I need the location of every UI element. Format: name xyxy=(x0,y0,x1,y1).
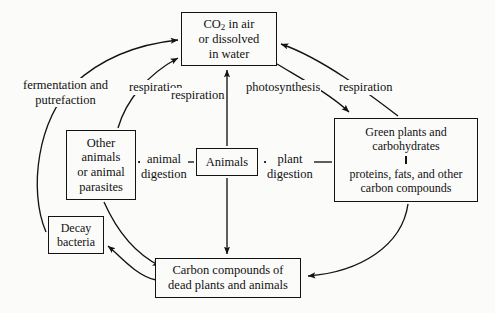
label-fermentation-line1: fermentation and xyxy=(23,78,108,92)
box-decay-bacteria-line1: Decay xyxy=(61,221,92,235)
label-animal-digestion-line1: animal xyxy=(147,152,181,166)
label-plant-digestion: plant digestion xyxy=(266,152,314,181)
label-plant-digestion-line2: digestion xyxy=(267,167,313,181)
box-co2-line3: in water xyxy=(209,47,250,62)
box-dead-matter: Carbon compounds of dead plants and anim… xyxy=(155,258,301,298)
box-green-plants-line3: proteins, fats, and other xyxy=(350,167,463,181)
label-animal-digestion-line2: digestion xyxy=(141,167,187,181)
label-fermentation-line2: putrefaction xyxy=(35,93,95,107)
label-photosynthesis: photosynthesis xyxy=(245,80,321,95)
box-dead-matter-line1: Carbon compounds of xyxy=(172,263,283,278)
box-green-plants-divider xyxy=(405,156,406,164)
box-animals: Animals xyxy=(196,148,258,176)
box-green-plants-line4: carbon compounds xyxy=(361,181,452,195)
label-plant-digestion-line1: plant xyxy=(277,152,302,166)
box-green-plants-line1: Green plants and xyxy=(365,125,446,139)
box-animals-label: Animals xyxy=(206,155,248,170)
carbon-cycle-diagram: CO2 in air or dissolved in water Other a… xyxy=(0,0,495,313)
box-co2: CO2 in air or dissolved in water xyxy=(181,12,277,66)
arrow-plants-to-dead-matter xyxy=(308,204,408,276)
box-other-animals-line1: Other xyxy=(87,136,115,151)
box-decay-bacteria: Decay bacteria xyxy=(48,216,104,254)
box-dead-matter-line2: dead plants and animals xyxy=(168,278,288,293)
box-other-animals-line3: or animal xyxy=(77,165,125,180)
label-respiration-right: respiration xyxy=(338,80,393,95)
box-other-animals: Other animals or animal parasites xyxy=(66,130,136,200)
box-co2-line2: or dissolved xyxy=(199,32,260,47)
box-other-animals-line4: parasites xyxy=(79,180,123,195)
box-green-plants-line2: carbohydrates xyxy=(372,139,439,153)
box-other-animals-line2: animals xyxy=(82,150,121,165)
box-co2-line1: CO2 in air xyxy=(203,17,254,32)
box-green-plants: Green plants and carbohydrates proteins,… xyxy=(334,118,478,202)
arrow-other-animals-to-dead-matter xyxy=(104,202,160,266)
label-animal-digestion: animal digestion xyxy=(140,152,188,181)
label-respiration-middle: respiration xyxy=(170,88,225,103)
box-decay-bacteria-line2: bacteria xyxy=(57,235,95,249)
arrow-dead-matter-to-decay-bacteria xyxy=(108,246,156,280)
label-fermentation: fermentation and putrefaction xyxy=(22,78,109,107)
